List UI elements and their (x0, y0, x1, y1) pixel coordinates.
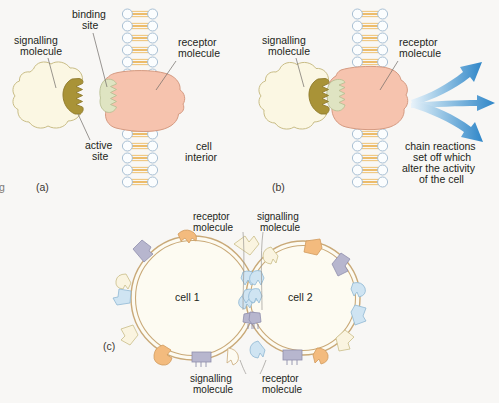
panel-b-id: (b) (272, 181, 285, 193)
cell-1-label: cell 1 (175, 291, 200, 303)
label-receptor-molecule-c-bottom: receptor molecule (262, 373, 302, 395)
cell-signalling-figure: signalling molecule binding site recepto… (0, 0, 499, 403)
panel-a-id: (a) (36, 181, 49, 193)
signalling-molecule-bottom-label-line2-c: molecule (193, 384, 233, 395)
cell-interior-label-line2-a: interior (185, 151, 218, 163)
signalling-molecule-label-line2-a: molecule (20, 45, 62, 57)
signalling-molecule-bottom-label-line1-c: signalling (190, 373, 232, 384)
label-signalling-molecule-c-top: signalling molecule (257, 211, 300, 233)
protein-lavender-c2-bottom (283, 350, 302, 360)
signalling-molecule-top-label-line1-c: signalling (257, 211, 299, 222)
junction-signalling-middle-cell2 (249, 289, 262, 303)
receptor-molecule-label-line2-a: molecule (178, 47, 220, 59)
receptor-molecule-bottom-label-line1-c: receptor (262, 373, 299, 384)
protein-lavender-c1-bottom (192, 352, 211, 362)
cut-off-text-fragment: g (0, 181, 5, 193)
junction-signalling-lower-cell2 (249, 312, 261, 324)
cell-2-label: cell 2 (288, 291, 313, 303)
receptor-molecule-bottom-label-line2-c: molecule (262, 384, 302, 395)
cell-junction-proteins (241, 271, 264, 329)
active-site-label-line2-a: site (92, 150, 109, 162)
binding-site-shape-a (100, 79, 117, 112)
receptor-molecule-top-label-line2-c: molecule (193, 222, 233, 233)
panel-c-id: (c) (103, 340, 115, 352)
receptor-molecule-label-line2-b: molecule (399, 47, 441, 59)
figure-background (0, 0, 499, 403)
label-signalling-molecule-c-bottom: signalling molecule (190, 373, 233, 395)
protein-blue-c2-right-upper (351, 283, 365, 297)
receptor-molecule-top-label-line1-c: receptor (193, 211, 230, 222)
label-receptor-molecule-c-top: receptor molecule (193, 211, 233, 233)
signalling-molecule-label-line2-b: molecule (268, 45, 310, 57)
chain-reactions-label-line4: of the cell (419, 173, 464, 185)
binding-site-label-line2-a: site (82, 19, 99, 31)
signalling-molecule-top-label-line2-c: molecule (260, 222, 300, 233)
